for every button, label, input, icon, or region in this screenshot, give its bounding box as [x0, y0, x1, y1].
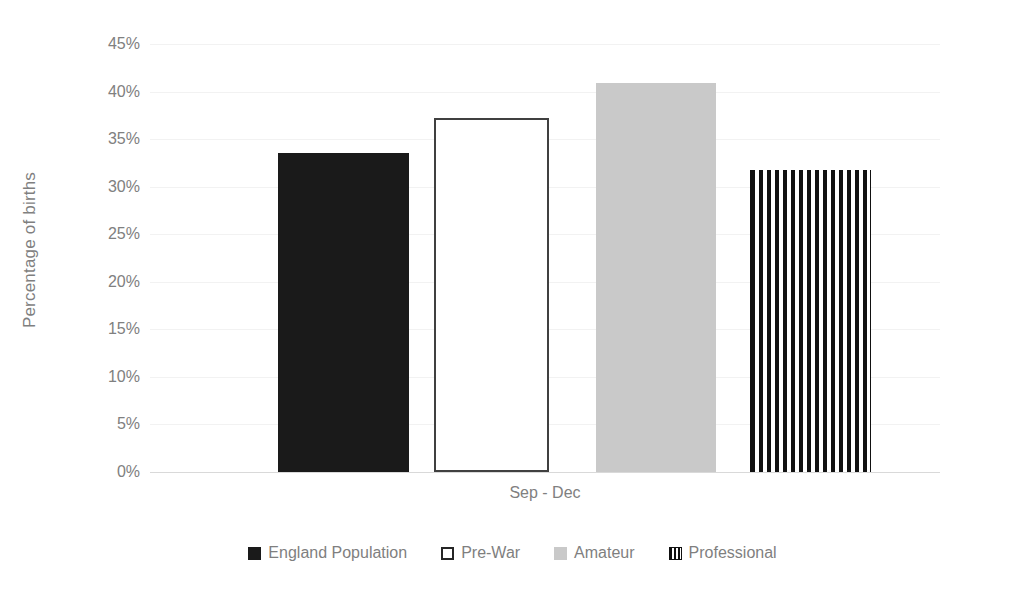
legend-swatch-icon-pre-war: [441, 547, 454, 560]
y-axis-tick-label: 40%: [78, 83, 140, 101]
y-axis-tick-label: 15%: [78, 320, 140, 338]
y-axis-tick-label: 25%: [78, 225, 140, 243]
legend-label: Pre-War: [461, 544, 520, 562]
y-axis-tick-label: 10%: [78, 368, 140, 386]
legend-label: Amateur: [574, 544, 634, 562]
legend: England PopulationPre-WarAmateurProfessi…: [0, 544, 1025, 562]
y-axis-title-text: Percentage of births: [20, 172, 40, 328]
y-axis-tick-label: 30%: [78, 178, 140, 196]
bar-amateur[interactable]: [596, 83, 716, 472]
gridline: [150, 92, 940, 93]
y-axis-tick-label: 0%: [78, 463, 140, 481]
bar-pre-war[interactable]: [434, 118, 549, 472]
gridline: [150, 472, 940, 473]
plot-area: [150, 44, 940, 472]
y-axis-tick-label: 45%: [78, 35, 140, 53]
y-axis-tick-label: 20%: [78, 273, 140, 291]
y-axis-tick-label: 5%: [78, 415, 140, 433]
legend-label: Professional: [689, 544, 777, 562]
y-axis-title: Percentage of births: [0, 0, 60, 500]
legend-label: England Population: [268, 544, 407, 562]
legend-item-england-population[interactable]: England Population: [248, 544, 407, 562]
y-axis-tick-label: 35%: [78, 130, 140, 148]
legend-item-pre-war[interactable]: Pre-War: [441, 544, 520, 562]
bar-professional[interactable]: [750, 170, 871, 472]
legend-swatch-icon-amateur: [554, 547, 567, 560]
x-axis-category-label: Sep - Dec: [150, 484, 940, 502]
bar-england-population[interactable]: [278, 153, 409, 472]
legend-item-amateur[interactable]: Amateur: [554, 544, 634, 562]
legend-swatch-icon-england-population: [248, 547, 261, 560]
legend-item-professional[interactable]: Professional: [669, 544, 777, 562]
chart-canvas: Percentage of births 45%40%35%30%25%20%1…: [0, 0, 1025, 609]
legend-swatch-icon-professional: [669, 547, 682, 560]
gridline: [150, 44, 940, 45]
